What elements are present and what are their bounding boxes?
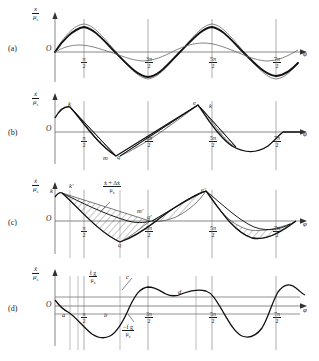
four-panel-figure: (a) xμs O φ π2 3π2 5π2 7π2 (b) ẋμs O φ	[0, 0, 319, 361]
panel-d-y-arrow	[52, 269, 57, 276]
panel-a-y-arrow	[52, 12, 57, 19]
panel-a-plot	[0, 0, 319, 88]
panel-b-chord-kq	[70, 107, 116, 156]
panel-b-chord-ek	[200, 107, 236, 147]
panel-a-x-arrow	[300, 49, 307, 54]
panel-c: (c) ẋμs O φ π2 3π2 5π2 7π2 ẋ + Δẋ μs k k…	[0, 174, 319, 262]
panel-c-plot	[0, 174, 319, 262]
panel-a-thin-sine	[55, 24, 298, 79]
panel-d-x-arrow	[300, 303, 307, 308]
panel-d-neg-friction-leader	[128, 314, 134, 322]
panel-c-y-arrow	[52, 182, 57, 189]
panel-d-c-leader	[122, 278, 132, 290]
panel-b-chord-qe	[120, 105, 198, 156]
panel-d-acceleration-curve	[55, 285, 305, 338]
panel-b-plot	[0, 88, 319, 174]
panel-c-hatched-region-3	[208, 193, 290, 239]
panel-b-x-arrow	[300, 129, 307, 134]
panel-b-y-arrow	[52, 93, 57, 100]
panel-a: (a) xμs O φ π2 3π2 5π2 7π2	[0, 0, 319, 88]
panel-d-plot	[0, 262, 319, 361]
panel-c-x-arrow	[300, 218, 307, 223]
panel-d: (d) ẍμs O φ π2 3π2 5π2 7π2 f g μs −f g μ…	[0, 262, 319, 361]
panel-b: (b) ẋμs O φ π2 3π2 5π2 7π2 k m q e k	[0, 88, 319, 174]
